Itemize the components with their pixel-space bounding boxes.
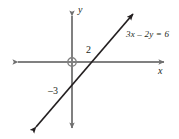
equation-label: 3x – 2y = 6 (126, 30, 169, 39)
x-intercept-label: 2 (86, 45, 91, 55)
plotted-line (36, 14, 133, 127)
y-axis-label: y (78, 5, 82, 15)
y-intercept-label: –3 (48, 86, 58, 96)
x-axis-label: x (158, 66, 162, 76)
coordinate-plane-svg (0, 0, 179, 139)
graph-figure: y x 2 –3 3x – 2y = 6 (0, 0, 179, 139)
